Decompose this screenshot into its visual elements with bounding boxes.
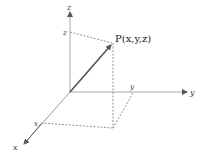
coordinate-diagram: z z y y x x P(x,y,z) — [0, 0, 201, 166]
position-vector — [70, 45, 111, 92]
y-tick-label: y — [129, 83, 135, 91]
x-projection-dashed — [41, 123, 113, 128]
y-axis-label: y — [189, 88, 195, 97]
z-axis-label: z — [66, 3, 72, 12]
z-projection-dashed — [70, 32, 112, 43]
x-axis-front — [24, 124, 41, 144]
z-tick-label: z — [62, 29, 67, 37]
y-projection-dashed — [113, 93, 133, 128]
x-axis-label: x — [13, 143, 18, 152]
point-label: P(x,y,z) — [115, 33, 151, 44]
x-tick-label: x — [34, 120, 38, 128]
